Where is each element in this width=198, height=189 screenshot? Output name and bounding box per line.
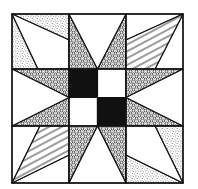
white-square (69, 98, 98, 127)
cell-middle-right (126, 69, 183, 126)
cell-bottom-left (12, 126, 69, 183)
white-square (98, 69, 127, 98)
cell-center (69, 69, 126, 126)
solid-square (98, 98, 127, 127)
cell-top-center (69, 14, 126, 69)
solid-square (69, 69, 98, 98)
cell-bottom-right (126, 126, 183, 183)
quilt-block-diagram (0, 0, 198, 189)
quilt-block-svg (0, 0, 198, 189)
cell-bottom-center (69, 126, 126, 183)
cell-middle-left (12, 69, 69, 126)
cell-top-left (12, 14, 69, 69)
cell-top-right (126, 14, 183, 69)
